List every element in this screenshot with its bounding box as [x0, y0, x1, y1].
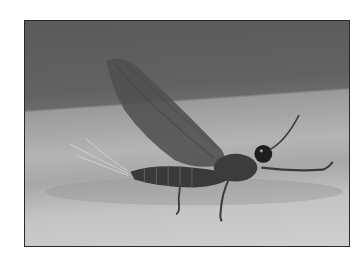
head	[254, 145, 272, 163]
mayfly-illustration	[25, 21, 349, 246]
antenna	[269, 115, 299, 150]
front-leg	[261, 162, 332, 171]
thorax	[214, 154, 258, 182]
mayfly-photo	[24, 20, 350, 247]
wing	[107, 58, 225, 166]
tail-filaments	[69, 138, 128, 176]
